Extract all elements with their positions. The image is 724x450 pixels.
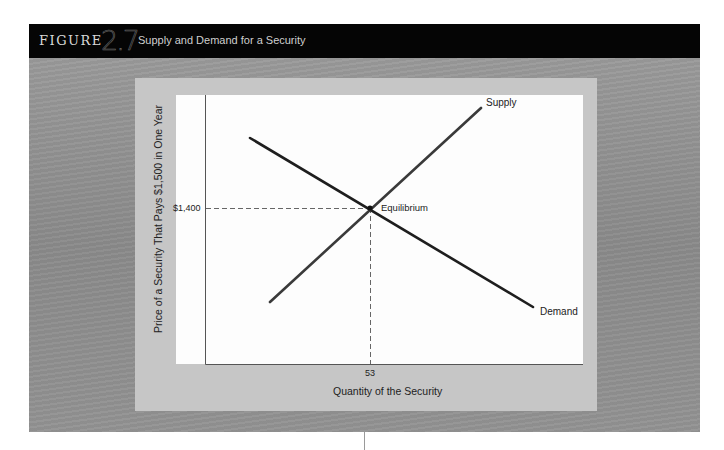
equilibrium-point	[367, 205, 372, 210]
x-tick-label: 53	[365, 368, 375, 378]
y-tick-label: $1,400	[173, 203, 201, 213]
equilibrium-label: Equilibrium	[381, 202, 428, 213]
y-axis-title: Price of a Security That Pays $1,500 in …	[152, 105, 164, 333]
x-axis-title: Quantity of the Security	[333, 385, 442, 397]
supply-label: Supply	[486, 97, 517, 108]
demand-label: Demand	[540, 306, 578, 317]
supply-curve	[270, 108, 481, 302]
supply-demand-chart	[0, 0, 724, 450]
divider-line	[364, 432, 365, 450]
